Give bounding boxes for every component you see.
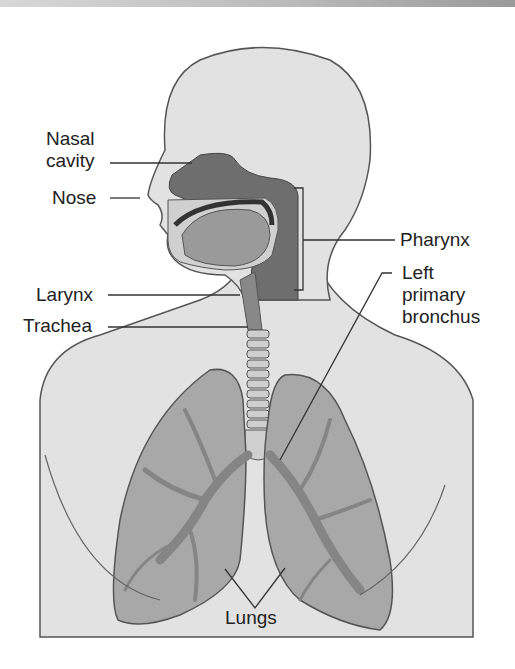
label-lungs: Lungs (225, 607, 277, 629)
label-nasal-cavity: Nasal cavity (46, 128, 95, 172)
label-bronchus-line-3: bronchus (402, 306, 480, 328)
label-nasal-line-2: cavity (46, 150, 95, 172)
label-pharynx: Pharynx (400, 229, 470, 251)
label-bronchus-line-1: Left (402, 262, 480, 284)
label-nasal-line-1: Nasal (46, 128, 95, 150)
label-bronchus-line-2: primary (402, 284, 480, 306)
label-left-primary-bronchus: Left primary bronchus (402, 262, 480, 328)
label-larynx: Larynx (36, 284, 93, 306)
label-trachea: Trachea (23, 315, 92, 337)
label-nose: Nose (52, 187, 96, 209)
